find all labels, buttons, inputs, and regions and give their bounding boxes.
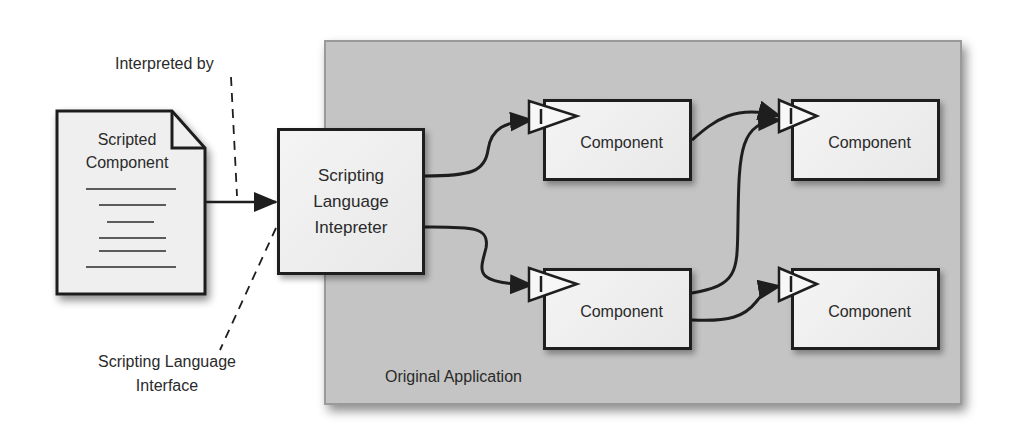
component-top-left: Component — [543, 99, 692, 181]
scripted-component-label-line2: Component — [62, 151, 192, 174]
diagram-canvas: Original Application — [0, 0, 1019, 434]
scripted-component-label: Scripted Component — [62, 128, 192, 174]
interface-callout-line1: Scripting Language — [62, 350, 272, 374]
interpreter-label-line3: Intepreter — [315, 215, 388, 241]
component-label: Component — [828, 300, 911, 324]
component-label: Component — [828, 131, 911, 155]
document-text-lines — [86, 189, 176, 267]
scripting-language-interface-callout: Scripting Language Interface — [62, 350, 272, 398]
scripted-component-label-line1: Scripted — [62, 128, 192, 151]
interpreter-label-line2: Language — [313, 189, 389, 215]
interpreted-by-callout: Interpreted by — [115, 52, 214, 76]
original-application-label: Original Application — [385, 368, 522, 386]
interpreted-by-leader — [231, 77, 237, 196]
component-top-right: Component — [791, 99, 940, 181]
scripting-language-interpreter-box: Scripting Language Intepreter — [277, 128, 425, 275]
component-bottom-right: Component — [791, 268, 940, 350]
component-label: Component — [580, 300, 663, 324]
interface-callout-line2: Interface — [62, 374, 272, 398]
component-label: Component — [580, 131, 663, 155]
interpreter-label-line1: Scripting — [318, 163, 384, 189]
interface-leader — [220, 228, 276, 350]
component-bottom-left: Component — [543, 268, 692, 350]
